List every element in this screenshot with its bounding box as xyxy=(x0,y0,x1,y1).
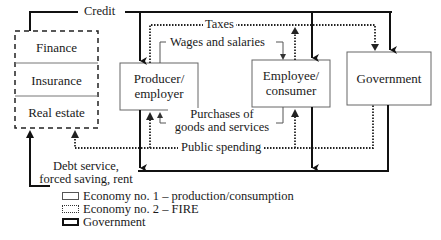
fire-real-estate: Real estate xyxy=(15,105,98,120)
legend-item-government: Government xyxy=(62,216,145,229)
purchases-label: Purchases of goods and services xyxy=(168,108,276,134)
government-label: Government xyxy=(347,71,431,86)
thin-solid-swatch xyxy=(62,192,79,200)
thick-solid-swatch xyxy=(62,218,79,226)
employee-label: Employee/ consumer xyxy=(252,68,330,98)
credit-label: Credit xyxy=(84,5,115,18)
dotted-swatch xyxy=(62,205,79,213)
taxes-label: Taxes xyxy=(203,18,236,31)
fire-insurance: Insurance xyxy=(15,73,98,88)
debt-service-label: Debt service, forced saving, rent xyxy=(36,160,136,186)
producer-label: Producer/ employer xyxy=(120,71,198,101)
public-spending-label: Public spending xyxy=(178,141,264,154)
wages-label: Wages and salaries xyxy=(170,36,265,49)
fire-finance: Finance xyxy=(15,40,98,55)
